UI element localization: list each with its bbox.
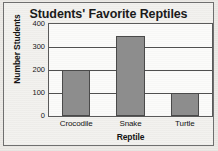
y-axis-tick-labels: 0100200300400: [24, 23, 45, 117]
bar-series: [49, 24, 212, 116]
x-tick-label: Snake: [119, 119, 141, 128]
x-tick-label: Turtle: [175, 119, 195, 128]
y-tick-label: 400: [24, 20, 45, 28]
y-tick-label: 100: [24, 89, 45, 97]
x-axis-tick-labels: CrocodileSnakeTurtle: [48, 119, 213, 131]
bar-chart-figure: Students' Favorite Reptiles Number Stude…: [0, 0, 218, 151]
y-axis-title: Number Students: [12, 10, 22, 88]
y-tick-label: 0: [24, 112, 45, 120]
bar: [116, 36, 144, 117]
x-tick-label: Crocodile: [60, 119, 93, 128]
bar: [171, 93, 199, 116]
y-tick-label: 300: [24, 43, 45, 51]
y-tick-label: 200: [24, 66, 45, 74]
figure-border: Students' Favorite Reptiles Number Stude…: [3, 2, 214, 146]
plot-area: [48, 23, 213, 117]
x-axis-title: Reptile: [48, 132, 213, 142]
bar: [62, 70, 90, 116]
